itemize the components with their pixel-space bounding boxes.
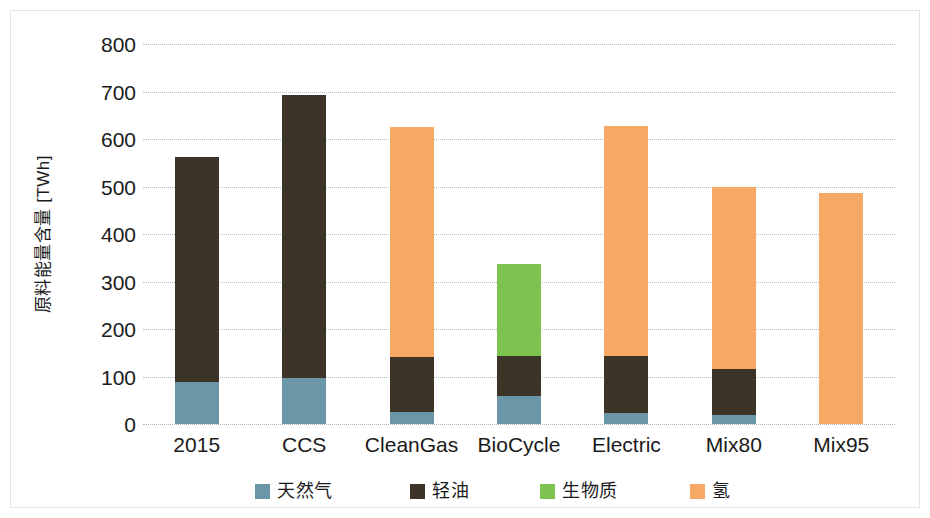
bar-Mix80[interactable] <box>712 44 756 424</box>
bar-Mix95[interactable] <box>819 44 863 424</box>
bar-segment-Electric-天然气[interactable] <box>604 413 648 424</box>
y-axis-tick-400: 400 <box>60 224 136 245</box>
bar-2015[interactable] <box>175 44 219 424</box>
bar-segment-BioCycle-轻油[interactable] <box>497 356 541 397</box>
x-axis-label-Electric: Electric <box>592 432 661 458</box>
bar-segment-CleanGas-轻油[interactable] <box>390 357 434 413</box>
legend-label-天然气: 天然气 <box>277 481 333 501</box>
gridline-0 <box>143 424 895 425</box>
bar-Electric[interactable] <box>604 44 648 424</box>
legend-swatch-icon-生物质 <box>540 484 555 499</box>
legend-label-生物质: 生物质 <box>562 481 618 501</box>
legend-item-生物质[interactable]: 生物质 <box>540 478 618 504</box>
y-axis-tick-300: 300 <box>60 271 136 292</box>
bar-segment-2015-天然气[interactable] <box>175 382 219 424</box>
bar-segment-CleanGas-氢[interactable] <box>390 127 434 357</box>
chart-legend: 天然气轻油生物质氢 <box>10 478 920 510</box>
x-axis-label-CCS: CCS <box>282 432 326 458</box>
x-axis-tick-labels: 2015CCSCleanGasBioCycleElectricMix80Mix9… <box>143 432 895 462</box>
legend-swatch-icon-氢 <box>690 484 705 499</box>
legend-swatch-icon-轻油 <box>410 484 425 499</box>
plot-area <box>143 44 895 424</box>
y-axis-tick-labels: 8007006005004003002001000 <box>60 44 136 424</box>
y-axis-tick-800: 800 <box>60 34 136 55</box>
x-axis-label-CleanGas: CleanGas <box>365 432 458 458</box>
x-axis-label-Mix80: Mix80 <box>706 432 762 458</box>
bar-segment-CCS-轻油[interactable] <box>282 95 326 378</box>
y-axis-tick-500: 500 <box>60 176 136 197</box>
bar-segment-BioCycle-天然气[interactable] <box>497 396 541 424</box>
y-axis-tick-0: 0 <box>60 414 136 435</box>
bar-segment-Electric-氢[interactable] <box>604 126 648 356</box>
legend-label-氢: 氢 <box>712 481 731 501</box>
legend-label-轻油: 轻油 <box>432 481 469 501</box>
y-axis-tick-700: 700 <box>60 81 136 102</box>
bar-segment-Mix80-氢[interactable] <box>712 187 756 369</box>
bar-segment-Mix95-氢[interactable] <box>819 193 863 424</box>
legend-item-天然气[interactable]: 天然气 <box>255 478 333 504</box>
y-axis-tick-100: 100 <box>60 366 136 387</box>
bar-segment-Electric-轻油[interactable] <box>604 356 648 413</box>
x-axis-label-2015: 2015 <box>173 432 220 458</box>
x-axis-label-BioCycle: BioCycle <box>478 432 561 458</box>
y-axis-tick-600: 600 <box>60 129 136 150</box>
y-axis-title-container: 原料能量含量 [TWh] <box>24 44 58 424</box>
bar-segment-CCS-天然气[interactable] <box>282 378 326 424</box>
bar-BioCycle[interactable] <box>497 44 541 424</box>
x-axis-label-Mix95: Mix95 <box>813 432 869 458</box>
stacked-bar-chart: 原料能量含量 [TWh] 8007006005004003002001000 2… <box>0 0 930 518</box>
legend-item-氢[interactable]: 氢 <box>690 478 731 504</box>
bar-CCS[interactable] <box>282 44 326 424</box>
y-axis-title: 原料能量含量 [TWh] <box>24 44 58 424</box>
bar-segment-Mix80-天然气[interactable] <box>712 415 756 424</box>
bar-segment-BioCycle-生物质[interactable] <box>497 264 541 356</box>
bar-CleanGas[interactable] <box>390 44 434 424</box>
legend-swatch-icon-天然气 <box>255 484 270 499</box>
bar-segment-Mix80-轻油[interactable] <box>712 369 756 415</box>
bar-segment-CleanGas-天然气[interactable] <box>390 412 434 424</box>
legend-item-轻油[interactable]: 轻油 <box>410 478 469 504</box>
y-axis-tick-200: 200 <box>60 319 136 340</box>
bar-segment-2015-轻油[interactable] <box>175 157 219 383</box>
